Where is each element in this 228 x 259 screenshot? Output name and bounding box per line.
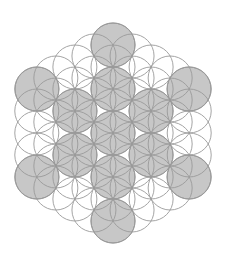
flower-of-life-diagram bbox=[0, 0, 228, 259]
